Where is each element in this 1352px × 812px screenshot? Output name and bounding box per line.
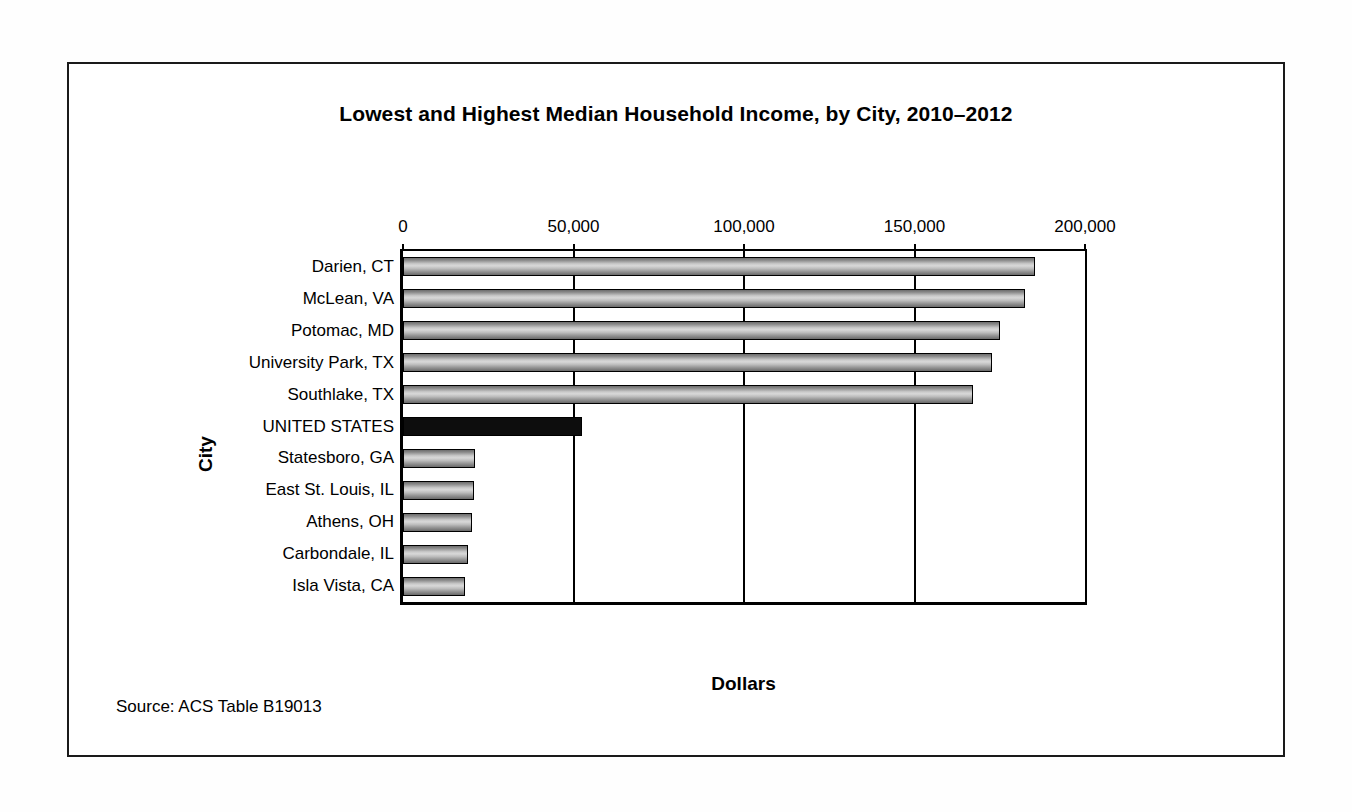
category-label: Southlake, TX xyxy=(288,385,394,405)
bar-athens-oh[interactable] xyxy=(403,513,472,532)
category-label: East St. Louis, IL xyxy=(265,480,394,500)
category-label: Athens, OH xyxy=(306,512,394,532)
chart-title: Lowest and Highest Median Household Inco… xyxy=(69,102,1283,126)
category-label: Carbondale, IL xyxy=(282,544,394,564)
bar-row: Potomac, MD xyxy=(403,321,1085,340)
bar-row: Athens, OH xyxy=(403,513,1085,532)
category-label: UNITED STATES xyxy=(262,417,394,437)
bar-carbondale-il[interactable] xyxy=(403,545,468,564)
category-label: Darien, CT xyxy=(312,257,394,277)
bar-row: Darien, CT xyxy=(403,257,1085,276)
x-tick-label: 0 xyxy=(398,217,407,237)
bar-row: Statesboro, GA xyxy=(403,449,1085,468)
bar-row: Carbondale, IL xyxy=(403,545,1085,564)
x-tick-label: 150,000 xyxy=(884,217,945,237)
y-axis-title: City xyxy=(195,436,217,472)
source-note: Source: ACS Table B19013 xyxy=(116,697,322,717)
x-tick-mark xyxy=(402,244,404,251)
x-axis-title: Dollars xyxy=(400,673,1087,695)
bar-row: UNITED STATES xyxy=(403,417,1085,436)
category-label: Isla Vista, CA xyxy=(292,576,394,596)
bar-southlake-tx[interactable] xyxy=(403,385,973,404)
bar-east-st-louis-il[interactable] xyxy=(403,481,474,500)
category-label: University Park, TX xyxy=(249,353,394,373)
category-label: Potomac, MD xyxy=(291,321,394,341)
bar-row: Southlake, TX xyxy=(403,385,1085,404)
bar-potomac-md[interactable] xyxy=(403,321,1000,340)
bar-mclean-va[interactable] xyxy=(403,289,1025,308)
x-tick-mark xyxy=(743,244,745,251)
bar-statesboro-ga[interactable] xyxy=(403,449,475,468)
bar-row: University Park, TX xyxy=(403,353,1085,372)
x-tick-label: 50,000 xyxy=(548,217,600,237)
bar-university-park-tx[interactable] xyxy=(403,353,992,372)
x-tick-label: 100,000 xyxy=(713,217,774,237)
page-canvas: Lowest and Highest Median Household Inco… xyxy=(0,0,1352,812)
x-tick-mark xyxy=(914,244,916,251)
bar-row: East St. Louis, IL xyxy=(403,481,1085,500)
category-label: Statesboro, GA xyxy=(278,448,394,468)
bar-isla-vista-ca[interactable] xyxy=(403,577,465,596)
x-tick-mark xyxy=(573,244,575,251)
figure-frame: Lowest and Highest Median Household Inco… xyxy=(67,62,1285,757)
x-tick-mark xyxy=(1084,244,1086,251)
bar-united-states[interactable] xyxy=(403,417,582,436)
bar-row: Isla Vista, CA xyxy=(403,577,1085,596)
bar-row: McLean, VA xyxy=(403,289,1085,308)
category-label: McLean, VA xyxy=(303,289,394,309)
plot-area: 050,000100,000150,000200,000Darien, CTMc… xyxy=(400,249,1087,605)
x-tick-label: 200,000 xyxy=(1054,217,1115,237)
bar-darien-ct[interactable] xyxy=(403,257,1035,276)
